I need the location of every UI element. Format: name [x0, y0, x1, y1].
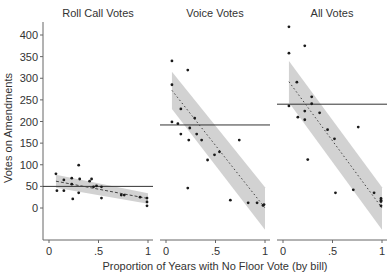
data-point: [288, 105, 291, 108]
data-point: [380, 204, 383, 207]
data-point: [213, 153, 216, 156]
data-point: [373, 191, 376, 194]
data-point: [229, 199, 232, 202]
faceted-scatter-chart: 050100150200250300350400 Votes on Amendm…: [0, 0, 392, 277]
data-point: [55, 172, 58, 175]
data-point: [352, 188, 355, 191]
data-point: [171, 60, 174, 63]
x-tick-label: 1: [262, 245, 268, 257]
data-point: [334, 191, 337, 194]
data-point: [146, 201, 149, 204]
data-point: [77, 191, 80, 194]
data-point: [71, 198, 74, 201]
data-point: [218, 150, 221, 153]
data-point: [171, 83, 174, 86]
panel-title: Voice Votes: [186, 7, 244, 19]
panel-roll-call-votes: Roll Call Votes0.51: [43, 7, 153, 257]
y-tick-label: 350: [20, 51, 38, 63]
data-point: [95, 185, 98, 188]
data-point: [123, 194, 126, 197]
data-point: [303, 118, 306, 121]
data-point: [171, 121, 174, 124]
data-point: [187, 139, 190, 142]
y-tick-label: 50: [26, 180, 38, 192]
data-point: [303, 44, 306, 47]
data-point: [186, 187, 189, 190]
y-tick-label: 0: [32, 202, 38, 214]
y-tick-label: 300: [20, 72, 38, 84]
y-tick-label: 250: [20, 94, 38, 106]
data-point: [120, 194, 123, 197]
data-point: [56, 189, 59, 192]
data-point: [186, 69, 189, 72]
data-point: [179, 133, 182, 136]
data-point: [195, 133, 198, 136]
x-tick-label: 0: [46, 245, 52, 257]
data-point: [100, 185, 103, 188]
data-point: [288, 25, 291, 28]
data-point: [380, 200, 383, 203]
x-tick-label: 1: [145, 245, 151, 257]
confidence-band: [172, 72, 265, 230]
data-point: [310, 102, 313, 105]
y-tick-label: 400: [20, 29, 38, 41]
data-point: [179, 108, 182, 111]
data-point: [146, 204, 149, 207]
data-point: [247, 201, 250, 204]
data-point: [326, 128, 329, 131]
data-point: [256, 201, 259, 204]
y-tick-label: 100: [20, 159, 38, 171]
data-point: [295, 81, 298, 84]
data-point: [238, 139, 241, 142]
data-point: [70, 177, 73, 180]
data-point: [78, 178, 81, 181]
data-point: [92, 185, 95, 188]
data-point: [100, 197, 103, 200]
x-tick-label: .5: [94, 245, 103, 257]
data-point: [77, 164, 80, 167]
panel-voice-votes: Voice Votes0.51: [160, 7, 270, 257]
data-point: [296, 116, 299, 119]
y-tick-label: 150: [20, 137, 38, 149]
x-tick-label: 0: [163, 245, 169, 257]
data-point: [306, 158, 309, 161]
data-point: [62, 189, 65, 192]
data-point: [288, 52, 291, 55]
chart-svg: 050100150200250300350400 Votes on Amendm…: [0, 0, 392, 277]
data-point: [70, 183, 73, 186]
data-point: [62, 178, 65, 181]
data-point: [90, 178, 93, 181]
x-axis-label: Proportion of Years with No Floor Vote (…: [102, 260, 327, 272]
panel-title: Roll Call Votes: [62, 7, 134, 19]
data-point: [357, 126, 360, 129]
y-axis-label: Votes on Amendments: [2, 72, 14, 183]
panels: Roll Call Votes0.51Voice Votes0.51All Vo…: [43, 7, 387, 257]
data-point: [176, 122, 179, 125]
panel-all-votes: All Votes0.51: [277, 7, 387, 257]
data-point: [206, 159, 209, 162]
data-point: [193, 117, 196, 120]
x-tick-label: .5: [211, 245, 220, 257]
y-tick-label: 200: [20, 116, 38, 128]
x-tick-label: 0: [280, 245, 286, 257]
confidence-band: [289, 61, 382, 230]
x-tick-label: 1: [379, 245, 385, 257]
panel-title: All Votes: [311, 7, 354, 19]
y-axis: 050100150200250300350400: [20, 22, 43, 240]
data-point: [188, 127, 191, 130]
data-point: [318, 111, 321, 114]
data-point: [333, 137, 336, 140]
data-point: [200, 139, 203, 142]
data-point: [310, 95, 313, 98]
data-point: [139, 196, 142, 199]
data-point: [303, 110, 306, 113]
data-point: [146, 197, 149, 200]
data-point: [88, 180, 91, 183]
x-tick-label: .5: [328, 245, 337, 257]
data-point: [263, 203, 266, 206]
